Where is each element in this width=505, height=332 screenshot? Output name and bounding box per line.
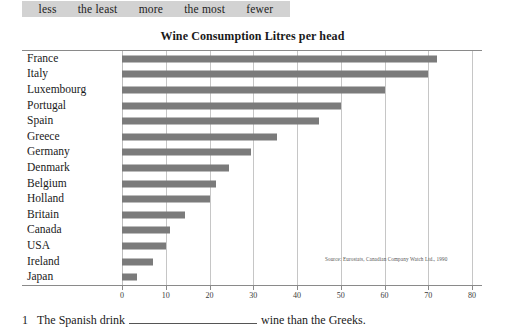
axis-tick xyxy=(472,286,473,290)
category-label: Britain xyxy=(27,209,59,221)
chart-row: Greece xyxy=(22,129,482,145)
chart-row: Belgium xyxy=(22,176,482,192)
exercise-blank-input[interactable] xyxy=(129,312,257,324)
chart-row: Spain xyxy=(22,113,482,129)
bar-chart: FranceItalyLuxembourgPortugalSpainGreece… xyxy=(22,50,482,286)
bar-track xyxy=(122,67,482,83)
word-bank-item[interactable]: the most xyxy=(184,3,225,15)
category-label: Holland xyxy=(27,193,64,205)
category-label: France xyxy=(27,53,58,65)
axis-tick-label: 80 xyxy=(468,291,476,300)
word-bank-item[interactable]: more xyxy=(139,3,163,15)
exercise-number: 1 xyxy=(22,313,28,328)
chart-row: Britain xyxy=(22,207,482,223)
chart-row: Germany xyxy=(22,145,482,161)
category-label: Spain xyxy=(27,115,53,127)
bar xyxy=(122,86,385,93)
exercise-text-after: wine than the Greeks. xyxy=(261,313,366,328)
bar xyxy=(122,55,437,62)
axis-tick xyxy=(428,286,429,290)
category-label: Luxembourg xyxy=(27,84,86,96)
category-label: Greece xyxy=(27,131,60,143)
bar xyxy=(122,71,428,78)
bar xyxy=(122,118,319,125)
exercise-text-before: The Spanish drink xyxy=(37,313,125,328)
bar xyxy=(122,102,341,109)
axis-tick-label: 70 xyxy=(424,291,432,300)
axis-tick-label: 60 xyxy=(381,291,389,300)
chart-row: Japan xyxy=(22,269,482,285)
bar-track xyxy=(122,82,482,98)
chart-row: Portugal xyxy=(22,98,482,114)
bar xyxy=(122,149,251,156)
bar xyxy=(122,274,137,281)
word-bank-item[interactable]: fewer xyxy=(246,3,273,15)
category-label: Japan xyxy=(27,271,53,283)
axis-tick-label: 10 xyxy=(162,291,170,300)
bar xyxy=(122,164,229,171)
chart-row: Holland xyxy=(22,191,482,207)
bar-track xyxy=(122,176,482,192)
category-label: Canada xyxy=(27,225,61,237)
chart-row: Canada xyxy=(22,223,482,239)
exercise-sentence: 1 The Spanish drink wine than the Greeks… xyxy=(22,312,492,328)
axis-tick xyxy=(297,286,298,290)
axis-tick xyxy=(253,286,254,290)
category-label: USA xyxy=(27,240,50,252)
chart-title: Wine Consumption Litres per head xyxy=(0,29,505,44)
bar-track xyxy=(122,223,482,239)
chart-row: France xyxy=(22,51,482,67)
bar-track xyxy=(122,238,482,254)
word-bank: lessthe leastmorethe mostfewer xyxy=(22,1,290,17)
bar-track xyxy=(122,145,482,161)
source-note: Source: Eurostats, Canadian Company Watc… xyxy=(325,256,447,262)
word-bank-item[interactable]: less xyxy=(39,3,57,15)
bar-track xyxy=(122,269,482,285)
category-label: Denmark xyxy=(27,162,70,174)
bar xyxy=(122,211,185,218)
x-axis: 01020304050607080 xyxy=(22,286,482,306)
axis-tick-label: 40 xyxy=(293,291,301,300)
axis-tick xyxy=(341,286,342,290)
chart-row: Luxembourg xyxy=(22,82,482,98)
word-bank-item[interactable]: the least xyxy=(78,3,118,15)
axis-tick xyxy=(385,286,386,290)
bar-track xyxy=(122,207,482,223)
bar-track xyxy=(122,160,482,176)
bar-track xyxy=(122,129,482,145)
chart-row: Denmark xyxy=(22,160,482,176)
bar xyxy=(122,258,153,265)
chart-row: USA xyxy=(22,238,482,254)
bar xyxy=(122,227,170,234)
axis-tick xyxy=(122,286,123,290)
axis-tick-label: 0 xyxy=(120,291,124,300)
axis-tick-label: 30 xyxy=(249,291,257,300)
chart-row: Italy xyxy=(22,67,482,83)
bar-track xyxy=(122,98,482,114)
category-label: Germany xyxy=(27,147,70,159)
category-label: Italy xyxy=(27,69,48,81)
bar xyxy=(122,242,166,249)
axis-tick xyxy=(166,286,167,290)
chart-rows: FranceItalyLuxembourgPortugalSpainGreece… xyxy=(22,51,482,285)
axis-tick-label: 50 xyxy=(337,291,345,300)
axis-tick-label: 20 xyxy=(206,291,214,300)
category-label: Portugal xyxy=(27,100,66,112)
bar-track xyxy=(122,113,482,129)
bar-track xyxy=(122,51,482,67)
axis-tick xyxy=(210,286,211,290)
bar xyxy=(122,180,216,187)
bar xyxy=(122,196,210,203)
bar-track xyxy=(122,191,482,207)
bar xyxy=(122,133,277,140)
category-label: Ireland xyxy=(27,256,60,268)
category-label: Belgium xyxy=(27,178,67,190)
